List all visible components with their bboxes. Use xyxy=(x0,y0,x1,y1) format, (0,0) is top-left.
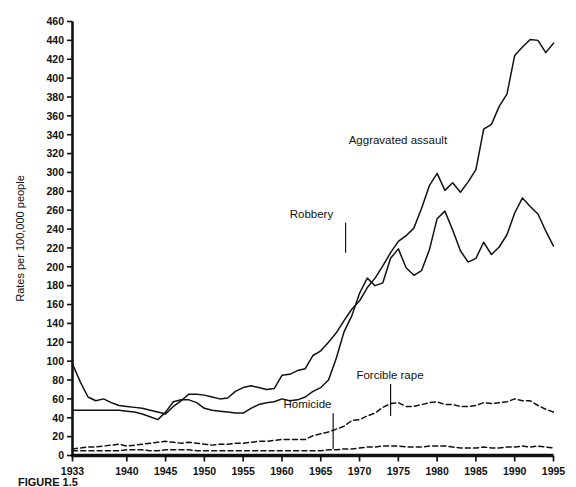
x-tick-label: 1995 xyxy=(542,465,566,477)
y-tick-label: 220 xyxy=(46,242,64,254)
y-tick-label: 100 xyxy=(46,355,64,367)
y-tick-label: 20 xyxy=(52,430,64,442)
x-axis-tick-labels: 1933194019451950195519601965197019751980… xyxy=(61,465,566,477)
x-tick-label: 1975 xyxy=(387,465,411,477)
annotation-forcible-rape: Forcible rape xyxy=(356,369,423,381)
y-tick-label: 0 xyxy=(58,449,64,461)
y-tick-label: 160 xyxy=(46,298,64,310)
annotation-robbery: Robbery xyxy=(290,208,334,220)
y-tick-label: 200 xyxy=(46,261,64,273)
y-tick-label: 180 xyxy=(46,279,64,291)
y-tick-label: 360 xyxy=(46,110,64,122)
x-tick-label: 1950 xyxy=(193,465,217,477)
y-tick-label: 400 xyxy=(46,72,64,84)
x-tick-label: 1960 xyxy=(270,465,294,477)
y-tick-label: 40 xyxy=(52,412,64,424)
y-tick-label: 320 xyxy=(46,147,64,159)
x-tick-label: 1955 xyxy=(231,465,255,477)
y-axis-tick-labels: 0204060801001201401601802002202402602803… xyxy=(46,15,64,461)
y-tick-label: 420 xyxy=(46,53,64,65)
y-tick-label: 140 xyxy=(46,317,64,329)
series-line-aggravated-assault xyxy=(73,39,554,414)
series-line-homicide xyxy=(73,446,554,451)
y-tick-label: 60 xyxy=(52,393,64,405)
x-tick-label: 1980 xyxy=(425,465,449,477)
y-tick-label: 280 xyxy=(46,185,64,197)
annotation-aggravated-assault: Aggravated assault xyxy=(349,134,448,146)
x-tick-label: 1990 xyxy=(503,465,527,477)
y-tick-label: 80 xyxy=(52,374,64,386)
x-tick-label: 1965 xyxy=(309,465,333,477)
x-tick-label: 1940 xyxy=(115,465,139,477)
y-tick-label: 240 xyxy=(46,223,64,235)
series-line-robbery xyxy=(73,198,554,420)
y-tick-label: 440 xyxy=(46,34,64,46)
y-tick-label: 260 xyxy=(46,204,64,216)
figure-caption-text: FIGURE 1.5 xyxy=(18,476,78,487)
y-tick-label: 120 xyxy=(46,336,64,348)
y-tick-label: 380 xyxy=(46,91,64,103)
y-tick-label: 340 xyxy=(46,129,64,141)
y-axis-title: Rates per 100,000 people xyxy=(14,175,26,302)
figure-caption: FIGURE 1.5 xyxy=(18,472,78,487)
x-tick-label: 1945 xyxy=(154,465,178,477)
y-tick-label: 300 xyxy=(46,166,64,178)
x-tick-label: 1985 xyxy=(464,465,488,477)
figure-container: 0204060801001201401601802002202402602803… xyxy=(0,0,576,487)
x-tick-label: 1970 xyxy=(348,465,372,477)
crime-rates-line-chart: 0204060801001201401601802002202402602803… xyxy=(0,0,576,487)
data-series-group xyxy=(73,39,554,450)
annotation-homicide: Homicide xyxy=(284,398,332,410)
y-tick-label: 460 xyxy=(46,15,64,27)
